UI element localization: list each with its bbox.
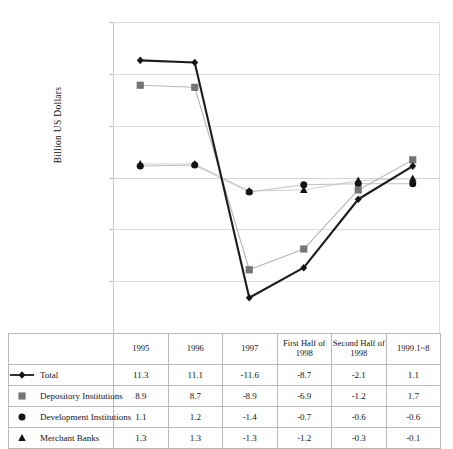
- circle-data-marker: [355, 180, 362, 187]
- square-data-marker: [191, 84, 198, 91]
- data-cell-r1-c4: -8.7: [277, 365, 332, 386]
- data-table: 199519961997First Half of 1998Second Hal…: [8, 333, 441, 449]
- legend-row-development-institutions[interactable]: Development Institutions: [9, 407, 114, 428]
- series-line: [140, 85, 413, 270]
- triangle-data-marker: [18, 434, 26, 441]
- series-line: [140, 164, 413, 191]
- series-line: [140, 165, 413, 192]
- table-row: Depository Institutions8.98.7-8.9-6.9-1.…: [9, 386, 441, 407]
- column-header-1: 1995: [114, 334, 169, 365]
- legend-label: Development Institutions: [40, 412, 131, 422]
- data-cell-r3-c5: -0.6: [332, 407, 387, 428]
- circle-data-marker: [300, 181, 307, 188]
- data-cell-r1-c3: -11.6: [223, 365, 278, 386]
- data-cell-r3-c2: 1.2: [168, 407, 223, 428]
- y-axis-title: Billion US Dollars: [53, 60, 63, 190]
- data-cell-r4-c2: 1.3: [168, 428, 223, 449]
- diamond-data-marker: [137, 57, 144, 65]
- data-table-wrapper: 199519961997First Half of 1998Second Hal…: [8, 333, 440, 449]
- circle-data-marker: [19, 414, 26, 421]
- circle-data-marker: [409, 180, 416, 187]
- series-total: [137, 57, 416, 302]
- legend-row-merchant-banks[interactable]: Merchant Banks: [9, 428, 114, 449]
- data-cell-r2-c4: -6.9: [277, 386, 332, 407]
- data-cell-r3-c3: -1.4: [223, 407, 278, 428]
- legend-label: Merchant Banks: [40, 433, 99, 443]
- diamond-data-marker: [191, 59, 198, 67]
- legend-row-total[interactable]: Total: [9, 365, 114, 386]
- table-corner-cell: [9, 334, 114, 365]
- table-row: Development Institutions1.11.2-1.4-0.7-0…: [9, 407, 441, 428]
- circle-data-marker: [246, 189, 253, 196]
- data-cell-r1-c5: -2.1: [332, 365, 387, 386]
- square-data-marker: [18, 392, 25, 399]
- data-cell-r4-c3: -1.3: [223, 428, 278, 449]
- diamond-data-marker: [19, 371, 26, 379]
- square-marker: [9, 390, 35, 402]
- circle-marker: [9, 411, 35, 423]
- circle-data-marker: [137, 163, 144, 170]
- column-header-4: First Half of 1998: [277, 334, 332, 365]
- circle-data-marker: [191, 162, 198, 169]
- legend-label: Depository Institutions: [40, 391, 123, 401]
- square-data-marker: [137, 82, 144, 89]
- data-cell-r2-c6: 1.7: [386, 386, 441, 407]
- diamond-line-marker: [9, 369, 35, 381]
- legend-label: Total: [40, 370, 58, 380]
- data-cell-r1-c6: 1.1: [386, 365, 441, 386]
- plot-area: 15.010.05.00.0-5.0-10.0-15.0: [113, 22, 440, 333]
- data-cell-r3-c4: -0.7: [277, 407, 332, 428]
- data-cell-r2-c3: -8.9: [223, 386, 278, 407]
- data-cell-r3-c6: -0.6: [386, 407, 441, 428]
- triangle-marker: [9, 432, 35, 444]
- data-cell-r4-c5: -0.3: [332, 428, 387, 449]
- square-data-marker: [355, 186, 362, 193]
- column-header-3: 1997: [223, 334, 278, 365]
- square-data-marker: [300, 245, 307, 252]
- data-cell-r4-c6: -0.1: [386, 428, 441, 449]
- data-cell-r4-c4: -1.2: [277, 428, 332, 449]
- column-header-2: 1996: [168, 334, 223, 365]
- column-header-6: 1999.1~8: [386, 334, 441, 365]
- table-header-row: 199519961997First Half of 1998Second Hal…: [9, 334, 441, 365]
- data-cell-r2-c2: 8.7: [168, 386, 223, 407]
- data-cell-r2-c5: -1.2: [332, 386, 387, 407]
- data-cell-r1-c1: 11.3: [114, 365, 169, 386]
- series-line: [140, 60, 413, 297]
- diamond-data-marker: [246, 294, 253, 302]
- square-data-marker: [246, 266, 253, 273]
- series-depository-institutions: [137, 82, 417, 274]
- table-row: Merchant Banks1.31.3-1.3-1.2-0.3-0.1: [9, 428, 441, 449]
- data-cell-r1-c2: 11.1: [168, 365, 223, 386]
- data-cell-r4-c1: 1.3: [114, 428, 169, 449]
- table-row: Total11.311.1-11.6-8.7-2.11.1: [9, 365, 441, 386]
- column-header-5: Second Half of 1998: [332, 334, 387, 365]
- legend-row-depository-institutions[interactable]: Depository Institutions: [9, 386, 114, 407]
- series-layer: [113, 22, 440, 333]
